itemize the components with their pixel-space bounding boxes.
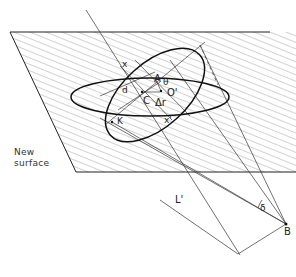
new-surface-label: New surface bbox=[14, 147, 49, 169]
label-delta: δ bbox=[260, 204, 266, 213]
surface-label-line2: surface bbox=[14, 158, 49, 169]
label-C: C bbox=[143, 96, 150, 106]
label-K: K bbox=[117, 117, 123, 126]
label-x: x bbox=[122, 60, 127, 69]
label-delta-r: Δr bbox=[155, 98, 166, 108]
label-B: B bbox=[284, 227, 291, 237]
diagram-canvas: x x' A θ O' C Δr d K δ L' B New surface bbox=[0, 0, 296, 277]
label-L-prime: L' bbox=[175, 195, 183, 205]
label-O-prime: O' bbox=[167, 88, 178, 98]
surface-label-line1: New bbox=[14, 147, 49, 158]
diagram-svg bbox=[0, 0, 296, 277]
label-A: A bbox=[154, 74, 161, 84]
label-d: d bbox=[122, 86, 128, 95]
new-surface-plane bbox=[10, 32, 296, 172]
label-theta: θ bbox=[163, 78, 169, 87]
label-x-prime: x' bbox=[164, 116, 172, 125]
